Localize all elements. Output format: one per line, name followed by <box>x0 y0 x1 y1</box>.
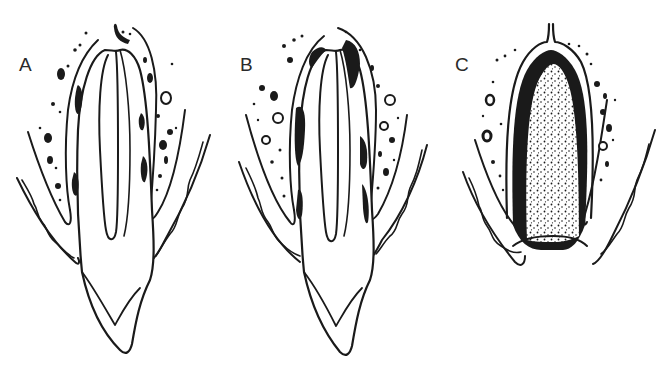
panel-b: B <box>222 0 447 382</box>
tooth-in-socket-illustration-a <box>0 0 225 382</box>
empty-socket-illustration-c <box>445 0 668 382</box>
tooth-in-socket-illustration-b <box>222 0 447 382</box>
panel-c: C <box>445 0 668 382</box>
panel-a: A <box>0 0 225 382</box>
figure: A <box>0 0 668 382</box>
